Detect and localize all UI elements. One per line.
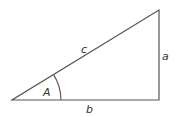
angle-label-A: A (42, 86, 51, 99)
angle-arc (54, 75, 61, 100)
side-label-a: a (162, 50, 169, 63)
side-label-c: c (81, 43, 87, 56)
side-label-b: b (86, 103, 93, 116)
right-triangle-diagram: c a b A (0, 0, 178, 116)
